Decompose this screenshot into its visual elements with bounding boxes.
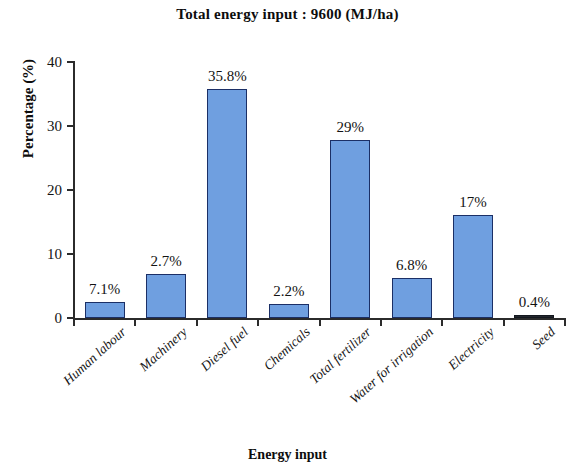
- bar-4: 2.2%: [269, 304, 309, 318]
- chart-title: Total energy input : 9600 (MJ/ha): [0, 6, 575, 23]
- bar-3: 35.8%: [207, 89, 247, 318]
- x-label-8: Seed: [529, 324, 559, 353]
- x-label-3: Diesel fuel: [198, 324, 252, 375]
- bar-7: 17%: [453, 215, 493, 318]
- x-axis-title: Energy input: [0, 447, 575, 463]
- x-label-2: Machinery: [137, 324, 191, 375]
- x-label-1: Human labour: [60, 324, 130, 389]
- bar-6: 6.8%: [392, 278, 432, 318]
- bar-value-label-2: 2.7%: [150, 253, 181, 270]
- y-tick-10: [67, 253, 74, 255]
- bar-value-label-5: 29%: [336, 119, 364, 136]
- x-tick-4: [319, 318, 321, 326]
- bar-1: 7.1%: [85, 302, 125, 318]
- bar-5: 29%: [330, 140, 370, 318]
- bar-value-label-4: 2.2%: [273, 283, 304, 300]
- x-label-7: Electricity: [445, 324, 497, 374]
- x-tick-0: [73, 318, 75, 326]
- y-tick-20: [67, 189, 74, 191]
- y-tick-label-30: 30: [47, 118, 62, 135]
- y-tick-label-0: 0: [55, 310, 63, 327]
- bar-chart: Total energy input : 9600 (MJ/ha) Percen…: [0, 0, 575, 467]
- x-tick-7: [503, 318, 505, 326]
- x-tick-2: [196, 318, 198, 326]
- bar-value-label-3: 35.8%: [208, 68, 247, 85]
- x-tick-1: [134, 318, 136, 326]
- y-tick-label-10: 10: [47, 246, 62, 263]
- y-axis-title: Percentage (%): [20, 29, 37, 189]
- x-tick-8: [564, 318, 566, 326]
- bar-8: 0.4%: [514, 315, 554, 318]
- bar-value-label-8: 0.4%: [519, 294, 550, 311]
- bar-value-label-1: 7.1%: [89, 281, 120, 298]
- y-tick-label-40: 40: [47, 54, 62, 71]
- bar-value-label-6: 6.8%: [396, 257, 427, 274]
- x-tick-3: [257, 318, 259, 326]
- x-tick-6: [441, 318, 443, 326]
- bar-value-label-7: 17%: [459, 194, 487, 211]
- plot-area: 010203040 7.1%2.7%35.8%2.2%29%6.8%17%0.4…: [74, 62, 565, 318]
- bar-2: 2.7%: [146, 274, 186, 318]
- y-tick-30: [67, 125, 74, 127]
- x-label-4: Chemicals: [260, 324, 313, 374]
- y-tick-label-20: 20: [47, 182, 62, 199]
- x-tick-5: [380, 318, 382, 326]
- y-tick-40: [67, 61, 74, 63]
